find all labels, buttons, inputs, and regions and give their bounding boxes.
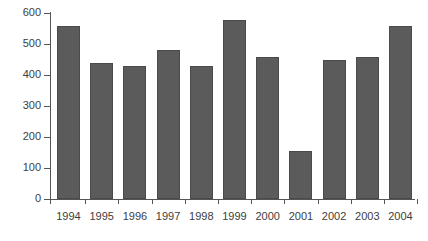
x-axis-tick-label: 2002	[318, 210, 350, 222]
y-axis-tick-label: 100	[7, 162, 41, 173]
bar	[57, 26, 80, 199]
y-axis-tick-label: 600	[7, 7, 41, 18]
x-axis-tick	[284, 199, 285, 204]
bar	[157, 50, 180, 199]
x-axis-tick-label: 1996	[119, 210, 151, 222]
x-axis-tick	[251, 199, 252, 204]
bar	[190, 66, 213, 199]
bar	[123, 66, 146, 199]
x-axis-tick-label: 2003	[351, 210, 383, 222]
y-axis-tick-label-wrap: 200	[0, 131, 41, 142]
y-axis-tick-label-wrap: 300	[0, 100, 41, 111]
x-axis-line	[50, 199, 415, 200]
y-axis-tick-label-wrap: 400	[0, 69, 41, 80]
x-axis-tick	[351, 199, 352, 204]
x-axis-tick	[417, 199, 418, 204]
bar	[356, 57, 379, 199]
y-axis-tick-label: 0	[7, 193, 41, 204]
bar-chart: 0100200300400500600 19941995199619971998…	[0, 0, 428, 241]
x-axis-tick-label: 2000	[252, 210, 284, 222]
y-axis-tick-label-wrap: 0	[0, 193, 41, 204]
y-axis-tick-label-wrap: 500	[0, 38, 41, 49]
y-axis-tick	[44, 44, 50, 45]
x-axis-tick-label: 2004	[385, 210, 417, 222]
x-axis-tick	[384, 199, 385, 204]
y-axis-tick	[44, 75, 50, 76]
y-axis-tick-label: 200	[7, 131, 41, 142]
x-axis-tick	[185, 199, 186, 204]
y-axis-tick-label: 400	[7, 69, 41, 80]
bar	[323, 60, 346, 199]
x-axis-tick-label: 1997	[152, 210, 184, 222]
x-axis-tick	[50, 199, 51, 204]
x-axis-tick-label: 2001	[285, 210, 317, 222]
y-axis-tick	[44, 106, 50, 107]
y-axis-tick-label: 500	[7, 38, 41, 49]
x-axis-tick	[118, 199, 119, 204]
bar	[289, 151, 312, 199]
x-axis-tick-label: 1995	[86, 210, 118, 222]
y-axis-tick	[44, 13, 50, 14]
y-axis-tick-label: 300	[7, 100, 41, 111]
y-axis-tick-label-wrap: 100	[0, 162, 41, 173]
bar	[90, 63, 113, 199]
bar	[223, 20, 246, 199]
y-axis-line	[50, 12, 51, 200]
x-axis-tick	[218, 199, 219, 204]
bar	[389, 26, 412, 199]
x-axis-tick	[318, 199, 319, 204]
y-axis-tick-label-wrap: 600	[0, 7, 41, 18]
bar	[256, 57, 279, 199]
y-axis-tick	[44, 137, 50, 138]
x-axis-tick-label: 1994	[53, 210, 85, 222]
x-axis-tick-label: 1999	[219, 210, 251, 222]
y-axis-tick	[44, 168, 50, 169]
x-axis-tick	[85, 199, 86, 204]
x-axis-tick-label: 1998	[185, 210, 217, 222]
x-axis-tick	[152, 199, 153, 204]
